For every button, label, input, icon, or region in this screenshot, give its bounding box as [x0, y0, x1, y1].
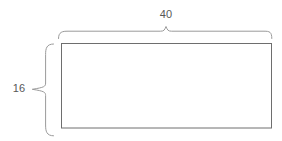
- curly-brace-horizontal-icon: [59, 27, 272, 39]
- width-dimension-label: 40: [25, 9, 282, 20]
- geometry-diagram: 40 16: [0, 0, 282, 141]
- height-dimension-label: 16: [8, 83, 30, 94]
- curly-brace-vertical-icon: [32, 44, 53, 136]
- diagram-canvas: [0, 0, 282, 141]
- rectangle-outline-icon: [62, 44, 272, 129]
